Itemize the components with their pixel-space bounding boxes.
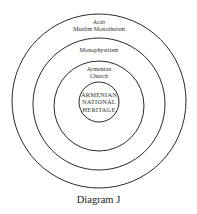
label-armenian: Armenian bbox=[87, 65, 112, 72]
label-national: NATIONAL bbox=[81, 98, 117, 105]
diagram-caption: Diagram J bbox=[0, 194, 197, 205]
label-heritage: HERITAGE bbox=[81, 106, 117, 113]
label-muslim-monotheism: Muslim Monotheism bbox=[73, 25, 125, 32]
label-monophysitism: Monophysitism bbox=[80, 46, 119, 53]
label-armenian-caps: ARMENIAN bbox=[81, 91, 117, 98]
label-armenian-church: Armenian Church bbox=[87, 65, 112, 79]
label-monophysitism-text: Monophysitism bbox=[80, 46, 119, 53]
label-armenian-national-heritage: ARMENIAN NATIONAL HERITAGE bbox=[81, 91, 117, 113]
label-arab-muslim-monotheism: Arab Muslim Monotheism bbox=[73, 18, 125, 32]
label-church: Church bbox=[87, 72, 112, 79]
label-arab: Arab bbox=[73, 18, 125, 25]
